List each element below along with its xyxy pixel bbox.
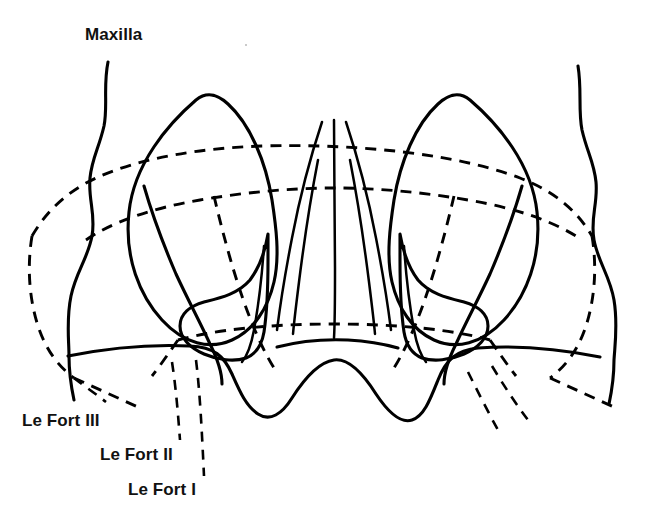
label-maxilla: Maxilla — [85, 26, 142, 43]
nasal-aperture-right-border — [346, 122, 391, 330]
nasal-septum-midline — [334, 120, 335, 338]
label-le-fort-3: Le Fort III — [22, 412, 100, 429]
hard-palate-arc — [277, 340, 398, 348]
nasal-inner-line-left — [293, 160, 318, 334]
right-descending-limb-a — [468, 372, 498, 430]
orbit-left-outline — [128, 95, 277, 345]
alveolar-arch — [68, 345, 600, 420]
nasal-inner-line-right — [350, 160, 375, 334]
leader-line-lefort-2 — [172, 362, 180, 440]
le-fort-right-lateral-crossing — [550, 378, 616, 408]
zygoma-left-outline — [144, 186, 222, 384]
leader-line-lefort-1 — [196, 360, 204, 476]
nasal-aperture-left-border — [277, 122, 322, 330]
right-descending-limb-b — [492, 366, 528, 420]
le-fort-3-right-descent — [550, 236, 595, 378]
ink-speck — [245, 44, 247, 46]
label-le-fort-2: Le Fort II — [100, 446, 173, 463]
figure-root: Maxilla Le Fort III Le Fort II Le Fort I — [0, 0, 668, 519]
le-fort-left-lateral-crossing — [74, 378, 140, 408]
label-le-fort-1: Le Fort I — [128, 481, 196, 498]
cut-off-caption — [24, 505, 454, 514]
le-fort-diagram-svg — [0, 0, 668, 519]
